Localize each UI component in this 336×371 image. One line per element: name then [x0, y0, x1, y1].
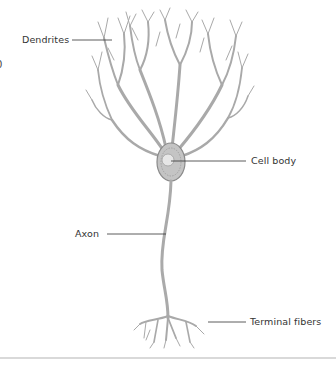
label-cell-body: Cell body [251, 155, 296, 166]
cell-body [157, 143, 185, 181]
label-axon: Axon [75, 228, 99, 239]
terminal-fibers [134, 316, 204, 348]
axon [162, 181, 171, 318]
bottom-divider [0, 357, 336, 359]
label-dendrites: Dendrites [22, 34, 69, 45]
edge-fragment-text: 0 [0, 59, 2, 70]
label-terminal-fibers: Terminal fibers [250, 316, 321, 327]
dendrites [86, 8, 254, 156]
neuron-diagram: 0 Dendrites Cell body Axon Terminal fibe… [0, 0, 336, 371]
